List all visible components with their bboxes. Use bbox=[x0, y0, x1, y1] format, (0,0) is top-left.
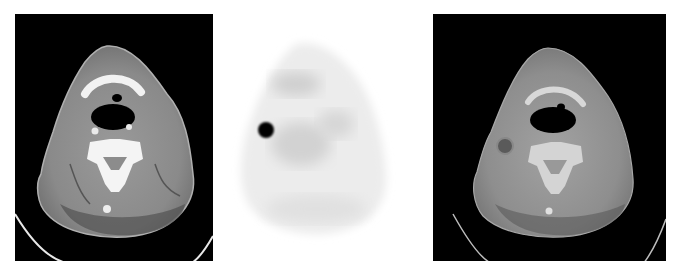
pet-neck-uptake bbox=[318, 110, 354, 138]
carotid-calcification bbox=[126, 124, 132, 130]
airway-small bbox=[112, 94, 122, 102]
scanner-couch-arc bbox=[643, 219, 666, 261]
fused-image-panel bbox=[433, 14, 666, 261]
scanner-couch-arc bbox=[453, 214, 493, 261]
pet-image bbox=[226, 14, 418, 261]
fused-image bbox=[433, 14, 666, 261]
pet-oral-uptake bbox=[271, 72, 321, 96]
spinous-process bbox=[546, 208, 553, 215]
ct-image bbox=[15, 14, 213, 261]
ct-image-panel bbox=[15, 14, 213, 261]
carotid-calcification bbox=[92, 128, 99, 135]
spinous-process bbox=[103, 205, 111, 213]
fused-hotspot-lymph-node bbox=[497, 138, 513, 154]
airway bbox=[530, 107, 576, 133]
pet-image-panel bbox=[226, 14, 418, 261]
figure-caption bbox=[105, 262, 575, 270]
pet-posterior-uptake bbox=[266, 195, 366, 223]
scanner-couch-arc bbox=[190, 236, 213, 261]
airway-small bbox=[557, 104, 565, 111]
pet-hotspot-lymph-node bbox=[258, 122, 274, 138]
